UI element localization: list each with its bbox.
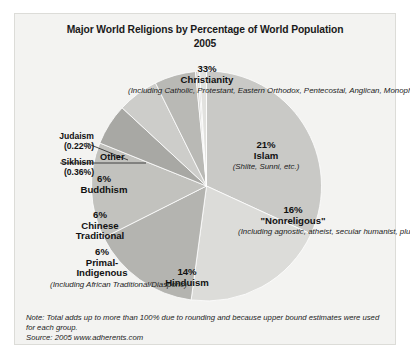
slice-label-nonreligious: 16% "Nonreligous" (Including agnostic, a… [238, 205, 348, 236]
islam-detail: (Shiite, Sunni, etc.) [220, 162, 312, 171]
hinduism-percent: 14% [152, 267, 222, 278]
judaism-name: Judaism [16, 131, 94, 141]
nonreligious-detail: (Including agnostic, atheist, secular hu… [238, 227, 348, 236]
slice-label-christianity: 33% Christianity (Including Catholic, Pr… [128, 64, 286, 95]
chinese-percent: 6% [58, 210, 142, 221]
nonreligious-name: "Nonreligous" [238, 216, 348, 227]
buddhism-name: Buddhism [66, 185, 142, 196]
sikhism-percent: (0.36%) [16, 167, 94, 177]
christianity-name: Christianity [128, 75, 286, 86]
islam-percent: 21% [220, 140, 312, 151]
slice-label-primal-indigenous: 6% Primal- Indigenous (Including African… [50, 247, 154, 289]
slice-label-other: Other [100, 152, 125, 163]
islam-name: Islam [220, 151, 312, 162]
slice-label-sikhism: Sikhism (0.36%) [16, 157, 94, 178]
judaism-percent: (0.22%) [16, 141, 94, 151]
christianity-detail: (Including Catholic, Protestant, Eastern… [128, 86, 286, 95]
slice-label-chinese-traditional: 6% Chinese Traditional [58, 210, 142, 242]
footnote-note: Note: Total adds up to more than 100% du… [26, 313, 388, 333]
footnote-source: Source: 2005 www.adherents.com [26, 333, 388, 343]
pie-slices-group [0, 0, 410, 359]
christianity-percent: 33% [128, 64, 286, 75]
sikhism-name: Sikhism [16, 157, 94, 167]
nonreligious-percent: 16% [238, 205, 348, 216]
pie-chart-figure: Major World Religions by Percentage of W… [0, 0, 410, 359]
slice-label-islam: 21% Islam (Shiite, Sunni, etc.) [220, 140, 312, 171]
slice-label-judaism: Judaism (0.22%) [16, 131, 94, 152]
chinese-name-line-2: Traditional [58, 231, 142, 242]
primal-detail: (Including African Traditional/Diasporic… [50, 280, 154, 289]
chart-footnote: Note: Total adds up to more than 100% du… [26, 313, 388, 344]
primal-name-line-2: Indigenous [50, 268, 154, 279]
primal-percent: 6% [50, 247, 154, 258]
